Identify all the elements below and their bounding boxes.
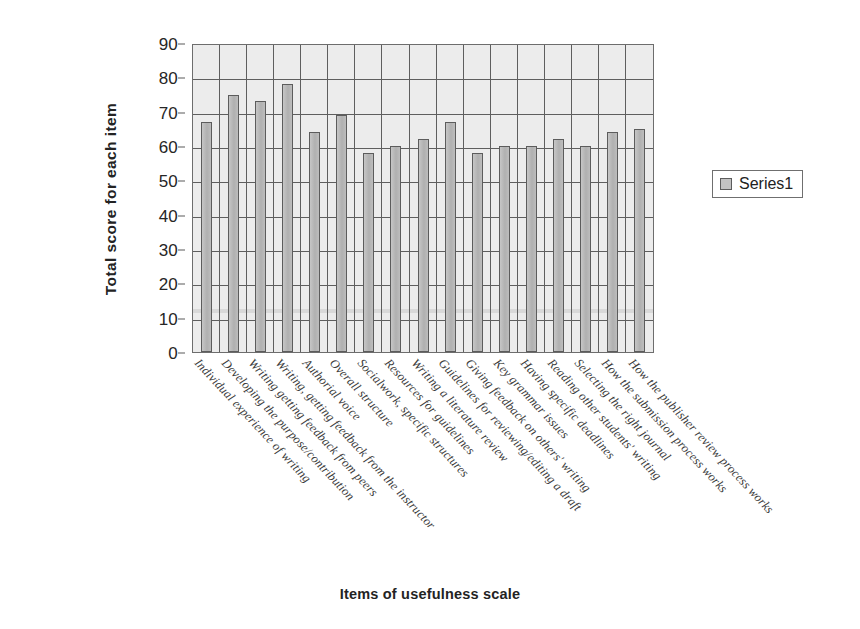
chart-page: Total score for each item 01020304050607… bbox=[0, 0, 860, 629]
y-tick-label: 90 bbox=[159, 36, 178, 53]
bar[interactable] bbox=[390, 146, 401, 352]
bar[interactable] bbox=[553, 139, 564, 352]
bar[interactable] bbox=[445, 122, 456, 352]
bar[interactable] bbox=[472, 153, 483, 352]
bar-slot bbox=[572, 45, 599, 352]
y-tick-label: 40 bbox=[159, 207, 178, 224]
y-tick-mark bbox=[178, 284, 185, 285]
bar-slot bbox=[410, 45, 437, 352]
bar-slot bbox=[382, 45, 409, 352]
y-tick-mark bbox=[178, 250, 185, 251]
bar[interactable] bbox=[309, 132, 320, 352]
y-tick-mark bbox=[178, 147, 185, 148]
y-tick-mark bbox=[178, 215, 185, 216]
bar[interactable] bbox=[363, 153, 374, 352]
bar[interactable] bbox=[580, 146, 591, 352]
bar-slot bbox=[437, 45, 464, 352]
y-tick-label: 80 bbox=[159, 70, 178, 87]
y-tick-label: 60 bbox=[159, 139, 178, 156]
plot-area bbox=[192, 44, 654, 353]
bar[interactable] bbox=[526, 146, 537, 352]
y-axis-ticks: 0102030405060708090 bbox=[140, 44, 184, 353]
bar[interactable] bbox=[201, 122, 212, 352]
bar[interactable] bbox=[634, 129, 645, 352]
y-tick-label: 50 bbox=[159, 173, 178, 190]
legend-label: Series1 bbox=[739, 175, 793, 193]
bar[interactable] bbox=[255, 101, 266, 352]
y-tick-label: 10 bbox=[159, 310, 178, 327]
bar-slot bbox=[220, 45, 247, 352]
y-tick-label: 70 bbox=[159, 104, 178, 121]
legend[interactable]: Series1 bbox=[712, 170, 803, 198]
bar-slot bbox=[464, 45, 491, 352]
bar-slot bbox=[247, 45, 274, 352]
bar[interactable] bbox=[228, 95, 239, 353]
bar-slot bbox=[301, 45, 328, 352]
y-tick-mark bbox=[178, 44, 185, 45]
bar-series bbox=[193, 45, 653, 352]
legend-square-icon bbox=[720, 178, 732, 190]
bar[interactable] bbox=[336, 115, 347, 352]
bar-slot bbox=[355, 45, 382, 352]
y-tick-label: 30 bbox=[159, 242, 178, 259]
y-tick-mark bbox=[178, 181, 185, 182]
x-axis-category-labels: Individual experience of writingDevelopi… bbox=[192, 356, 654, 571]
bar-slot bbox=[274, 45, 301, 352]
y-axis-title: Total score for each item bbox=[96, 44, 126, 354]
y-tick-label: 20 bbox=[159, 276, 178, 293]
y-tick-mark bbox=[178, 318, 185, 319]
y-tick-mark bbox=[178, 78, 185, 79]
bar-slot bbox=[599, 45, 626, 352]
bar-slot bbox=[491, 45, 518, 352]
bar-slot bbox=[545, 45, 572, 352]
y-tick-label: 0 bbox=[168, 345, 178, 362]
bar[interactable] bbox=[418, 139, 429, 352]
bar[interactable] bbox=[282, 84, 293, 352]
x-axis-title: Items of usefulness scale bbox=[0, 586, 860, 602]
y-tick-mark bbox=[178, 353, 185, 354]
y-tick-mark bbox=[178, 112, 185, 113]
bar-slot bbox=[626, 45, 653, 352]
bar[interactable] bbox=[499, 146, 510, 352]
bar-slot bbox=[193, 45, 220, 352]
bar-slot bbox=[328, 45, 355, 352]
bar[interactable] bbox=[607, 132, 618, 352]
bar-slot bbox=[518, 45, 545, 352]
